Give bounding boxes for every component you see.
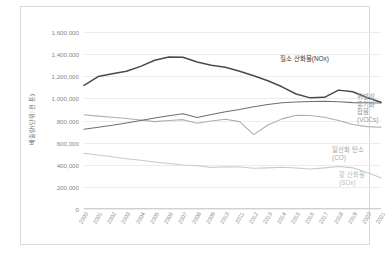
- y-tick-label: 1,000,000: [51, 95, 79, 102]
- x-tick-label: 2012: [247, 211, 258, 225]
- y-tick-label: 600,000: [57, 139, 79, 146]
- x-tick-label: 2006: [163, 211, 174, 225]
- chart-frame: 배출량(단위: 천 톤) 0200,000400,000600,000800,0…: [20, 6, 370, 245]
- series-label-co: 일산화 탄소(CO): [332, 146, 369, 161]
- x-tick-label: 2000: [78, 211, 89, 225]
- y-tick-label: 400,000: [57, 161, 79, 168]
- x-tick-label: 2008: [191, 211, 202, 225]
- series-line-1: [84, 101, 381, 129]
- series-label-nox: 질소 산화물(NOx): [280, 55, 329, 63]
- y-tick-label: 200,000: [57, 183, 79, 190]
- x-tick-label: 2001: [92, 211, 103, 225]
- x-tick-label: 2013: [262, 211, 273, 225]
- gridline: [84, 209, 381, 210]
- y-tick-label: 1,400,000: [51, 51, 79, 58]
- x-tick-label: 2004: [134, 211, 145, 225]
- x-tick-label: 2020: [361, 211, 372, 225]
- series-label-vocs: 휘발성 유기화합물 (VOCs): [357, 93, 378, 123]
- y-axis-title: 배출량(단위: 천 톤): [27, 72, 36, 168]
- x-tick-label: 2011: [234, 211, 245, 224]
- y-tick-label: 800,000: [57, 117, 79, 124]
- x-tick-label: 2009: [205, 211, 216, 225]
- x-tick-label: 2005: [148, 211, 159, 225]
- series-lines: [84, 21, 381, 209]
- x-tick-label: 2007: [177, 211, 188, 225]
- series-line-2: [84, 115, 381, 135]
- x-tick-label: 2015: [290, 211, 301, 225]
- series-label-sox: 황 산화물(SOx): [339, 171, 369, 186]
- plot-area: 0200,000400,000600,000800,0001,000,0001,…: [84, 21, 381, 209]
- x-tick-label: 2003: [120, 211, 131, 225]
- x-tick-label: 2017: [318, 211, 329, 225]
- x-tick-label: 2016: [304, 211, 315, 225]
- series-line-0: [84, 57, 381, 102]
- y-tick-label: 1,200,000: [51, 73, 79, 80]
- x-tick-label: 2010: [219, 211, 230, 225]
- x-tick-label: 2002: [106, 211, 117, 225]
- x-tick-label: 2019: [346, 211, 357, 225]
- x-tick-label: 2018: [332, 211, 343, 225]
- x-tick-label: 2014: [276, 211, 287, 225]
- y-tick-label: 0: [76, 206, 79, 213]
- y-tick-label: 1,600,000: [51, 29, 79, 36]
- x-tick-label: 2021: [375, 211, 386, 225]
